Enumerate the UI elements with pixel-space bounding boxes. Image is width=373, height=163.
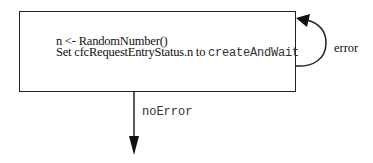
- arrows-layer: [0, 0, 373, 163]
- arrowhead-icon: [296, 14, 310, 27]
- noerror-label: noError: [142, 105, 192, 119]
- noerror-exit-arrow: [129, 91, 139, 155]
- flow-diagram: n <- RandomNumber() Set cfcRequestEntryS…: [0, 0, 373, 163]
- error-loop-arrow: [296, 14, 326, 66]
- arrowhead-down-icon: [129, 136, 139, 155]
- error-label: error: [334, 41, 358, 56]
